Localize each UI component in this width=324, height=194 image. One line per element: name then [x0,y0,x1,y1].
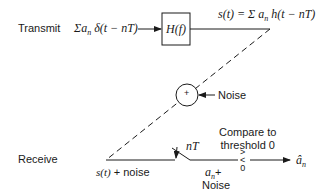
compare-caption: Compare to threshold 0 [219,127,276,151]
comparator-symbol: > < 0 [240,148,245,172]
transmit-input-expr: Σan δ(t − nT) [74,22,138,37]
transmit-label: Transmit [18,23,60,34]
h-expr: h(t − nT) [268,7,315,21]
compare-line2: threshold 0 [219,140,276,151]
transmit-output-expr: s(t) = Σ an h(t − nT) [218,8,315,23]
delta-expr: δ(t − nT) [91,21,138,35]
s-of-t: s(t) = Σ [218,7,258,21]
sampler-label: nT [186,140,199,152]
noise-label: Noise [218,90,246,101]
adder-symbol: + [184,89,189,98]
n-subscript: n [302,160,306,169]
plus-sign: + [215,166,221,178]
compare-line1: Compare to [219,127,276,138]
filter-label: H(f) [166,23,186,35]
receive-label: Receive [18,154,58,165]
sample-noise-label: Noise [202,180,230,191]
sampler-arrow [176,147,177,158]
output-estimate: ân [296,154,306,169]
zero-symbol: 0 [240,164,245,172]
receive-input-label: s(t)s(t) + noise + noise [96,167,150,178]
